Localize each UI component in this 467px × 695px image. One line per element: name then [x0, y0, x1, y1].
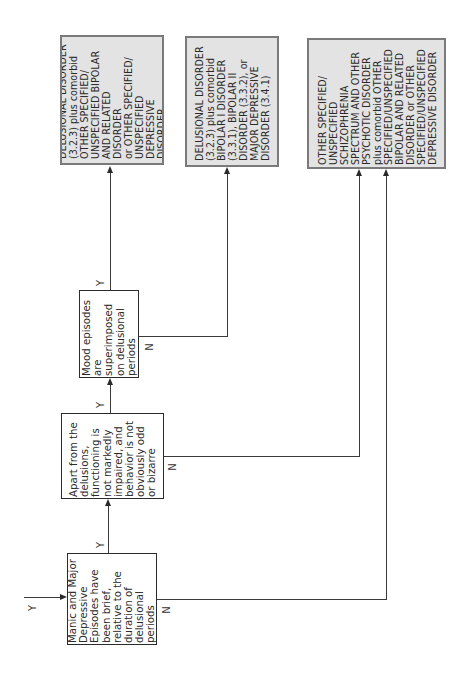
decision-functioning-not-impaired: Apart from the delusions, functioning is…: [61, 413, 164, 499]
decision-text: Apart from the delusions, functioning is…: [68, 415, 158, 497]
entry-connector: [24, 597, 61, 598]
connector-functioning-yes: [110, 384, 111, 413]
outcome-box-comorbid-other-specified-mood: DELUSIONAL DISORDER (3.2.3) plus comorbi…: [60, 35, 164, 165]
arrowhead-icon: [356, 169, 362, 176]
decision-text: Manic and Major Depressive Episodes have…: [67, 555, 157, 643]
connector-functioning-no-vertical: [359, 176, 360, 457]
connector-functioning-no: [164, 456, 360, 457]
arrowhead-icon: [383, 169, 389, 176]
yes-label: Y: [96, 540, 106, 550]
no-label: N: [162, 605, 172, 615]
arrowhead-icon: [60, 594, 67, 600]
yes-label: Y: [96, 278, 106, 288]
arrowhead-icon: [107, 378, 113, 385]
arrowhead-icon: [105, 499, 111, 506]
outcome-text: DELUSIONAL DISORDER (3.2.3) plus comorbi…: [60, 41, 164, 159]
no-label: N: [145, 342, 155, 352]
decision-mood-superimposed: Mood episodes are superimposed on delusi…: [79, 290, 139, 378]
connector-brief-yes: [108, 505, 109, 553]
connector-brief-no: [157, 599, 386, 600]
decision-text: Mood episodes are superimposed on delusi…: [81, 292, 137, 376]
outcome-text: DELUSIONAL DISORDER (3.2.3) plus comorbi…: [194, 43, 271, 161]
connector-mood-yes: [110, 172, 111, 290]
decision-brief-mood-episodes: Manic and Major Depressive Episodes have…: [67, 553, 157, 645]
connector-brief-no-vertical: [386, 176, 387, 600]
connector-mood-no: [139, 336, 227, 337]
arrowhead-icon: [107, 166, 113, 173]
outcome-text: OTHER SPECIFIED/ UNSPECIFIED SCHIZOPHREN…: [316, 43, 437, 165]
arrowhead-icon: [224, 167, 230, 174]
no-label: N: [168, 462, 178, 472]
outcome-box-comorbid-bipolar-or-mdd: DELUSIONAL DISORDER (3.2.3) plus comorbi…: [185, 36, 279, 167]
connector-mood-no-vertical: [227, 174, 228, 337]
entry-yes-label: Y: [28, 603, 38, 613]
outcome-box-other-specified-psychotic: OTHER SPECIFIED/ UNSPECIFIED SCHIZOPHREN…: [307, 38, 446, 169]
yes-label: Y: [96, 400, 106, 410]
